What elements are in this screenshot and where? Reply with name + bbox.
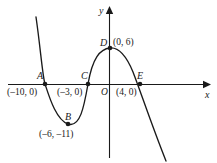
point-coord-e: (4, 0) <box>116 88 137 98</box>
y-axis-label: y <box>99 6 103 16</box>
point-marker-e <box>138 82 143 87</box>
point-marker-a <box>43 82 48 87</box>
point-marker-b <box>66 122 71 127</box>
point-label-a: A <box>37 71 43 81</box>
y-axis <box>106 6 113 158</box>
point-coord-d: (0, 6) <box>113 38 134 48</box>
point-marker-c <box>86 82 91 87</box>
y-axis-arrowhead <box>106 6 113 14</box>
point-label-d: D <box>100 38 107 48</box>
point-marker-d <box>108 46 113 51</box>
coordinate-plane-svg <box>0 0 217 163</box>
point-label-c: C <box>81 71 88 81</box>
x-axis-label: x <box>205 90 209 100</box>
point-coord-a: (–10, 0) <box>7 88 37 98</box>
point-label-e: E <box>137 71 143 81</box>
point-coord-b: (–6, –11) <box>39 130 73 140</box>
graph-figure: y x O A (–10, 0) B (–6, –11) C (–3, 0) D… <box>0 0 217 163</box>
point-label-b: B <box>65 112 71 122</box>
origin-label: O <box>101 88 108 98</box>
point-coord-c: (–3, 0) <box>57 88 82 98</box>
x-axis-arrowhead <box>203 81 211 88</box>
